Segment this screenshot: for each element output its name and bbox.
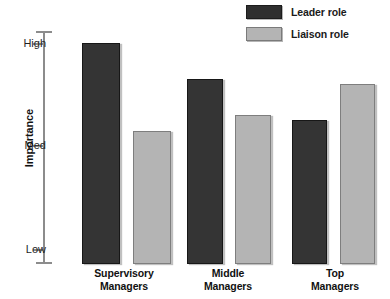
- category-line-2: Managers: [78, 280, 170, 293]
- category-line-1: Middle: [182, 267, 274, 280]
- category-line-1: Top: [289, 267, 381, 280]
- bar-middle-managers-leader-role: [187, 79, 223, 264]
- bar-supervisory-managers-liaison-role: [133, 131, 171, 264]
- x-axis-category-label-supervisory-managers: Supervisory Managers: [78, 267, 170, 292]
- category-line-1: Supervisory: [78, 267, 170, 280]
- bar-top-managers-leader-role: [292, 120, 327, 264]
- bar-chart: Leader role Liaison role High Med Low Im…: [0, 0, 390, 299]
- bar-supervisory-managers-leader-role: [82, 43, 120, 264]
- category-line-2: Managers: [289, 280, 381, 293]
- x-axis-category-label-middle-managers: Middle Managers: [182, 267, 274, 292]
- category-line-2: Managers: [182, 280, 274, 293]
- plot-area: [0, 0, 390, 299]
- bar-middle-managers-liaison-role: [235, 115, 271, 264]
- bar-top-managers-liaison-role: [340, 84, 375, 264]
- x-axis-category-label-top-managers: Top Managers: [289, 267, 381, 292]
